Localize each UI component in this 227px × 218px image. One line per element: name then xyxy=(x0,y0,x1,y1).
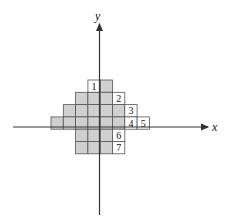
shaded-cell xyxy=(88,105,100,117)
x-axis-label: x xyxy=(211,120,218,134)
shaded-cell xyxy=(76,105,88,117)
shaded-cell xyxy=(100,80,112,92)
cell-number-label: 2 xyxy=(116,93,121,104)
shaded-cell xyxy=(63,105,75,117)
cell-number-label: 6 xyxy=(116,130,121,141)
diagram-canvas: 1234567 x y xyxy=(0,0,227,218)
cell-number-label: 3 xyxy=(128,105,133,116)
shaded-cell xyxy=(100,105,112,117)
shaded-cell xyxy=(88,92,100,104)
shaded-cell xyxy=(88,129,100,141)
shaded-cell xyxy=(113,105,125,117)
cell-number-label: 1 xyxy=(92,81,97,92)
y-axis-label: y xyxy=(94,9,101,23)
shaded-cell xyxy=(76,129,88,141)
shaded-cell xyxy=(76,142,88,154)
shaded-cell xyxy=(100,129,112,141)
shaded-cell xyxy=(100,142,112,154)
shaded-cell xyxy=(88,142,100,154)
shaded-cell xyxy=(76,92,88,104)
shaded-grid: 1234567 xyxy=(51,80,149,154)
shaded-cell xyxy=(100,92,112,104)
cell-number-label: 7 xyxy=(116,142,121,153)
